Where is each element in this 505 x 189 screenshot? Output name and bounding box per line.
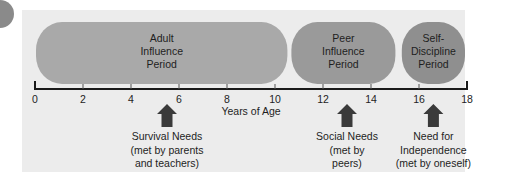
period-peer: PeerInfluencePeriod [291,22,395,84]
axis-title: Years of Age [221,105,280,117]
need-label-line: Survival Needs [132,130,203,142]
tick-label: 14 [365,93,377,105]
period-self: Self-DisciplinePeriod [402,22,465,84]
need-survival: Survival Needs(met by parentsand teacher… [131,104,204,169]
need-label-line: and teachers) [135,157,199,169]
tick-label: 18 [461,93,473,105]
tick-label: 0 [32,93,38,105]
period-bubbles: AdultInfluencePeriodPeerInfluencePeriodS… [36,22,465,84]
up-arrow-icon [423,104,443,127]
period-label-line: Period [418,58,449,70]
need-social: Social Needs(met bypeers) [316,104,378,169]
need-label-line: Independence [400,144,467,156]
needs-arrows: Survival Needs(met by parentsand teacher… [131,104,472,169]
up-arrow-icon [157,104,177,127]
need-label-line: (met by [329,144,365,156]
need-label-line: (met by parents [131,144,204,156]
period-label-line: Influence [322,45,365,57]
tick-label: 12 [317,93,329,105]
period-label-line: Adult [150,32,174,44]
age-influence-diagram: AdultInfluencePeriodPeerInfluencePeriodS… [0,0,505,189]
tick-label: 10 [269,93,281,105]
period-label-line: Period [328,58,359,70]
need-label-line: peers) [332,157,362,169]
period-label-line: Peer [332,32,355,44]
tick-label: 2 [80,93,86,105]
period-label-line: Period [147,58,178,70]
need-label-line: Social Needs [316,130,378,142]
age-axis: 024681012141618Years of Age [32,81,473,117]
tick-label: 16 [413,93,425,105]
need-independence: Need forIndependence(met by oneself) [396,104,471,169]
need-label-line: (met by oneself) [396,157,471,169]
tick-label: 4 [128,93,134,105]
tick-label: 6 [176,93,182,105]
need-label-line: Need for [413,130,454,142]
period-label-line: Influence [140,45,183,57]
period-adult: AdultInfluencePeriod [36,22,287,84]
tick-label: 8 [224,93,230,105]
period-label-line: Discipline [411,45,456,57]
period-label-line: Self- [423,32,445,44]
up-arrow-icon [337,104,357,127]
